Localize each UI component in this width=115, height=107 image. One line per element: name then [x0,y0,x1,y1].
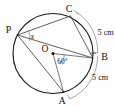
chord-p-to-b [18,35,93,58]
label-angle-x-at-p: x [30,32,35,41]
label-point-c: C [66,3,73,14]
label-point-b: B [101,51,108,62]
circle-geometry-diagram: P C B A O x 60° 5 cm 5 cm [0,0,115,107]
label-arc-cb-length: 5 cm [98,28,115,37]
label-point-p: P [6,24,12,35]
label-centre-o: O [42,44,49,54]
centre-point-dot [52,52,55,55]
vertex-dot-p [17,34,19,36]
label-arc-ba-length: 5 cm [92,73,109,82]
label-central-angle: 60° [57,57,67,66]
label-point-a: A [58,95,66,106]
chord-p-to-c [18,16,71,35]
geometry-figure: P C B A O x 60° 5 cm 5 cm [0,0,115,107]
pointer-tick-c [74,10,78,15]
arc-bracket-ba-end-tick [68,95,71,99]
vertex-dot-a [63,91,65,93]
